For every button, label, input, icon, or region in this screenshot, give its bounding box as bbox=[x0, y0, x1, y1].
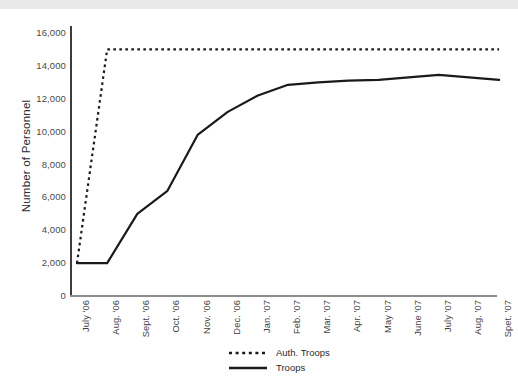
chart-page: Number of Personnel 16,00014,00012,00010… bbox=[0, 0, 518, 382]
legend-swatch-solid-icon bbox=[228, 363, 268, 373]
series-line-troops bbox=[77, 75, 499, 263]
series-line-auth-troops bbox=[77, 49, 499, 263]
legend-label-troops: Troops bbox=[276, 362, 305, 373]
legend-swatch-dotted-icon bbox=[228, 348, 268, 358]
legend-label-auth-troops: Auth. Troops bbox=[276, 347, 330, 358]
legend-item-troops: Troops bbox=[228, 360, 378, 375]
legend-item-auth-troops: Auth. Troops bbox=[228, 345, 378, 360]
line-chart: Number of Personnel 16,00014,00012,00010… bbox=[0, 0, 518, 382]
chart-legend: Auth. Troops Troops bbox=[228, 345, 378, 375]
plot-series-svg bbox=[0, 0, 518, 382]
